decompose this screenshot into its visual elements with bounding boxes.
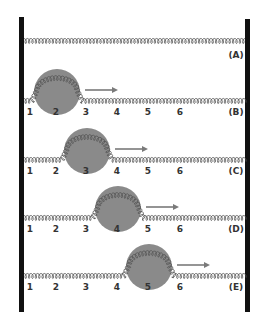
row-e: 1 2 3 4 5 6 (E) — [24, 244, 246, 292]
position-label-2: 2 — [53, 107, 59, 117]
left-wall — [19, 17, 24, 312]
arrow-head-icon — [204, 262, 210, 268]
arrow-head-icon — [142, 146, 148, 152]
spring-a — [24, 38, 245, 43]
row-label: (B) — [228, 107, 243, 117]
spring-wave-diagram: (A) 1 2 3 4 5 6 (B) 1 2 3 4 5 6 (C) 1 2 … — [0, 0, 262, 329]
arrow-head-icon — [112, 87, 118, 93]
position-label-5: 5 — [145, 282, 151, 292]
row-c: 1 2 3 4 5 6 (C) — [24, 128, 246, 176]
position-label-5: 5 — [145, 107, 151, 117]
row-a: (A) — [24, 38, 245, 60]
position-label-6: 6 — [177, 224, 183, 234]
row-b: 1 2 3 4 5 6 (B) — [24, 69, 246, 117]
position-label-3: 3 — [83, 282, 89, 292]
position-label-2: 2 — [53, 166, 59, 176]
position-label-4: 4 — [114, 166, 120, 176]
position-label-6: 6 — [177, 166, 183, 176]
position-label-5: 5 — [145, 166, 151, 176]
position-label-2: 2 — [53, 224, 59, 234]
position-label-2: 2 — [53, 282, 59, 292]
right-wall — [245, 19, 250, 312]
position-label-4: 4 — [114, 107, 120, 117]
row-label: (E) — [229, 282, 243, 292]
position-label-1: 1 — [27, 282, 33, 292]
position-label-1: 1 — [27, 166, 33, 176]
position-label-5: 5 — [145, 224, 151, 234]
row-label: (D) — [228, 224, 244, 234]
position-label-1: 1 — [27, 107, 33, 117]
position-label-6: 6 — [177, 107, 183, 117]
position-label-3: 3 — [83, 224, 89, 234]
position-label-6: 6 — [177, 282, 183, 292]
position-label-4: 4 — [114, 282, 120, 292]
position-label-3: 3 — [83, 107, 89, 117]
position-label-4: 4 — [114, 224, 120, 234]
row-d: 1 2 3 4 5 6 (D) — [24, 186, 246, 234]
arrow-head-icon — [173, 204, 179, 210]
row-label: (C) — [229, 166, 244, 176]
position-label-3: 3 — [83, 166, 89, 176]
position-label-1: 1 — [27, 224, 33, 234]
row-label-a: (A) — [228, 50, 243, 60]
